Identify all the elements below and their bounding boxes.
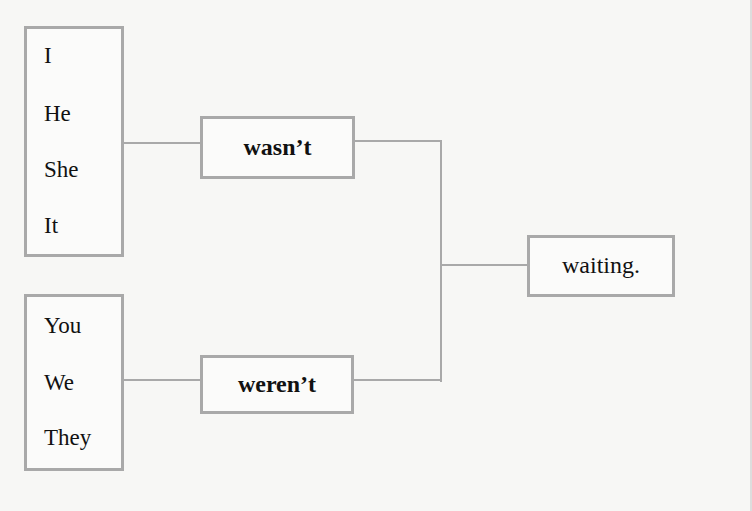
ending-box: waiting. xyxy=(527,235,675,297)
connector-line xyxy=(123,142,201,144)
verb-box-wasnt: wasn’t xyxy=(200,116,355,179)
verb-werent: weren’t xyxy=(203,371,351,398)
connector-line xyxy=(440,140,442,382)
pronoun-they: They xyxy=(44,425,91,451)
connector-line xyxy=(354,140,442,142)
pronoun-we: We xyxy=(44,370,74,396)
pronoun-you: You xyxy=(44,313,81,339)
pronoun-she: She xyxy=(44,157,79,183)
connector-line xyxy=(123,379,201,381)
pronoun-i: I xyxy=(44,43,52,69)
pronoun-it: It xyxy=(44,213,58,239)
connector-line xyxy=(353,379,442,381)
pronoun-box-plural: You We They xyxy=(24,294,124,471)
verb-wasnt: wasn’t xyxy=(203,134,352,161)
verb-box-werent: weren’t xyxy=(200,355,354,414)
pronoun-he: He xyxy=(44,101,71,127)
connector-line xyxy=(440,264,528,266)
pronoun-box-singular: I He She It xyxy=(24,26,124,257)
ending-waiting: waiting. xyxy=(530,252,672,279)
